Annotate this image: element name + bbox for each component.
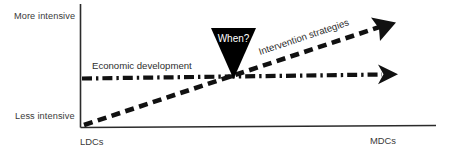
- chart-figure: When? More intensive Less intensive LDCs…: [0, 0, 457, 153]
- y-axis-bottom-label: Less intensive: [15, 111, 75, 121]
- economic-development-arrowhead: [378, 65, 398, 85]
- x-axis-left-label: LDCs: [80, 136, 104, 147]
- y-axis-top-label: More intensive: [14, 11, 75, 21]
- when-marker-label: When?: [218, 33, 250, 44]
- x-axis-right-label: MDCs: [370, 135, 396, 146]
- intervention-strategies-label: Intervention strategies: [257, 16, 350, 56]
- crossover-marker: When?: [211, 28, 256, 79]
- economic-development-label: Economic development: [92, 60, 192, 71]
- chart-canvas: When? More intensive Less intensive LDCs…: [0, 0, 457, 153]
- x-axis-line: [81, 126, 437, 128]
